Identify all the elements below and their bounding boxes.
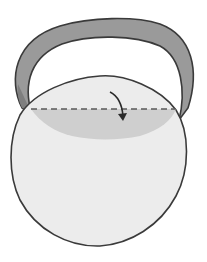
diagram-canvas [0,0,207,262]
fold-diagram [0,0,207,262]
circle-shape [11,76,187,246]
